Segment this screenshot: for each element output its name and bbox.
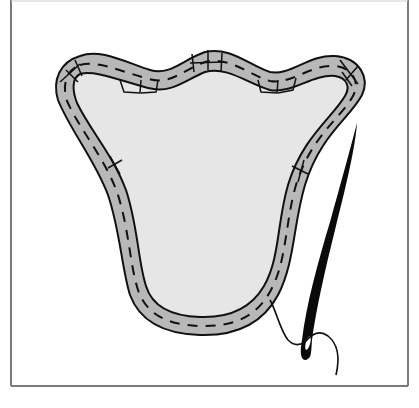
illustration-canvas (0, 0, 419, 408)
